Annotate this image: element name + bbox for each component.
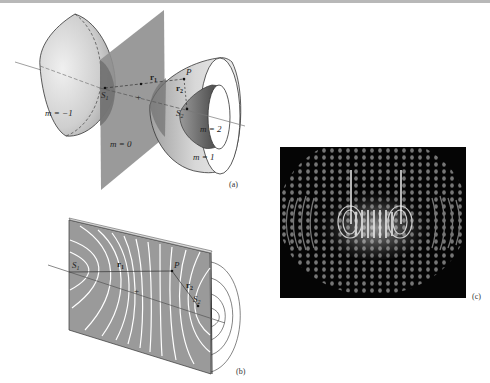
panel-c: (c): [278, 135, 481, 301]
label-m0: m = 0: [110, 139, 132, 149]
center-mark-b: +: [134, 286, 139, 296]
label-m1: m = 1: [193, 152, 215, 162]
panel-label-c: (c): [472, 292, 481, 301]
source-s2-dot-b: [197, 305, 200, 308]
hyperbola-rings: [211, 262, 240, 372]
label-p: P: [185, 67, 192, 77]
cross-section-plane: [69, 220, 211, 374]
source-s2-dot: [186, 108, 189, 111]
panel-label-b: (b): [236, 367, 246, 376]
panel-label-a: (a): [229, 180, 238, 189]
label-m-neg1: m = −1: [45, 108, 73, 118]
center-mark: +: [136, 92, 141, 102]
point-p-dot: [183, 78, 186, 81]
panel-b: + S1 S2 P r1 r2 (b): [48, 218, 246, 376]
label-m2: m = 2: [200, 124, 222, 134]
point-p-dot-b: [171, 270, 174, 273]
figure-canvas: + S1 S2 P r1 r2 m = −1 m = 0 m = 1 m = 2…: [0, 0, 490, 383]
source-s1-dot: [104, 87, 107, 90]
midpoint-dot: [140, 83, 142, 85]
panel-a: + S1 S2 P r1 r2 m = −1 m = 0 m = 1 m = 2…: [15, 10, 245, 190]
label-p-b: P: [173, 260, 180, 270]
central-glow: [315, 180, 435, 260]
